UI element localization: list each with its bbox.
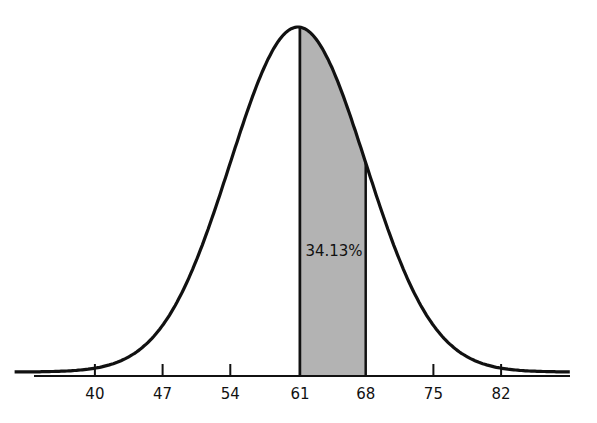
x-tick-label-54: 54 — [221, 385, 240, 403]
x-tick-label-82: 82 — [492, 385, 511, 403]
x-tick-label-68: 68 — [356, 385, 375, 403]
x-tick-label-47: 47 — [153, 385, 172, 403]
shaded-area-61-68 — [298, 27, 366, 376]
x-tick-label-61: 61 — [290, 385, 309, 403]
normal-distribution-chart: 40475461687582 34.13% — [0, 0, 597, 423]
shaded-area-percent-label: 34.13% — [305, 242, 362, 260]
normal-curve — [15, 27, 570, 372]
x-tick-label-75: 75 — [424, 385, 443, 403]
x-tick-label-40: 40 — [85, 385, 104, 403]
